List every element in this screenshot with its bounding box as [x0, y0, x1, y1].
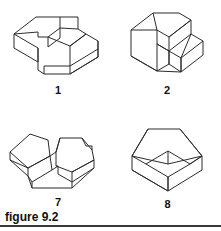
figure-7-drawing: [6, 126, 110, 196]
figure-1-drawing: [8, 8, 108, 84]
figure-2-label: 2: [119, 84, 215, 96]
figure-7-label: 7: [6, 196, 110, 208]
figure-cell-2: 2: [119, 8, 215, 98]
figure-cell-8: 8: [120, 120, 215, 210]
figure-1-label: 1: [8, 84, 108, 96]
figure-caption: figure 9.2: [5, 210, 58, 224]
figure-2-drawing: [119, 8, 215, 84]
figure-cell-7: 7: [6, 126, 110, 211]
figure-8-drawing: [120, 120, 215, 198]
figure-cell-1: 1: [8, 8, 108, 98]
figure-8-label: 8: [120, 198, 215, 210]
caption-rule: [0, 225, 221, 227]
figure-sheet: 1 2: [0, 0, 221, 231]
